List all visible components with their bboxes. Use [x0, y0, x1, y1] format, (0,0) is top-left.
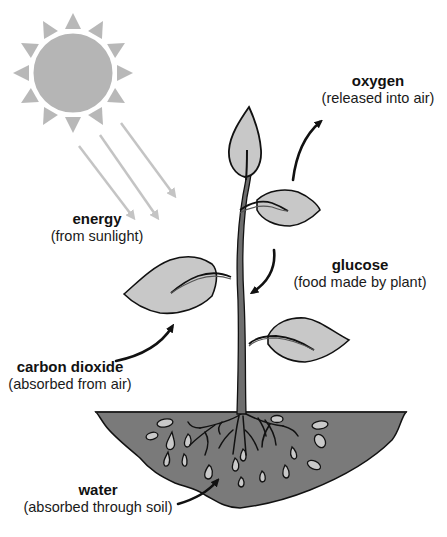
glucose-subtitle: (food made by plant) [280, 274, 440, 291]
glucose-title: glucose [280, 256, 440, 274]
water-title: water [18, 481, 178, 499]
carbon-dioxide-arrow [116, 327, 172, 361]
carbon-dioxide-subtitle: (absorbed from air) [4, 376, 136, 393]
sunlight-arrows [79, 123, 174, 217]
oxygen-title: oxygen [312, 72, 444, 90]
oxygen-arrow [293, 122, 320, 180]
oxygen-subtitle: (released into air) [312, 90, 444, 107]
energy-subtitle: (from sunlight) [32, 228, 162, 245]
oxygen-label: oxygen (released into air) [312, 72, 444, 107]
carbon-dioxide-label: carbon dioxide (absorbed from air) [4, 358, 136, 393]
carbon-dioxide-title: carbon dioxide [4, 358, 136, 376]
glucose-arrow [253, 250, 274, 292]
sun-icon [13, 13, 133, 133]
glucose-label: glucose (food made by plant) [280, 256, 440, 291]
energy-title: energy [32, 210, 162, 228]
water-label: water (absorbed through soil) [18, 481, 178, 516]
water-subtitle: (absorbed through soil) [18, 499, 178, 516]
energy-label: energy (from sunlight) [32, 210, 162, 245]
top-leaf [229, 107, 261, 177]
